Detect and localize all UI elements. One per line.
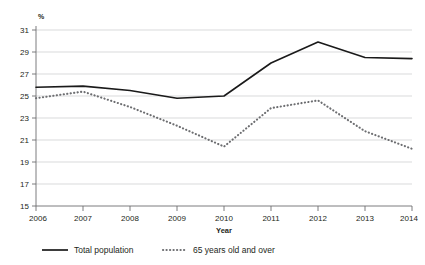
xtick-label-2014: 2014 <box>400 214 418 223</box>
ytick-label-27: 27 <box>20 70 29 79</box>
line-chart: % 31 29 <box>0 0 425 265</box>
ytick-label-15: 15 <box>20 202 29 211</box>
xtick-label-2006: 2006 <box>29 214 47 223</box>
ytick-label-21: 21 <box>20 136 29 145</box>
xtick-label-2007: 2007 <box>74 214 92 223</box>
series-line-total-population <box>36 42 412 98</box>
xtick-label-2013: 2013 <box>356 214 374 223</box>
legend-label-total-population: Total population <box>74 245 134 255</box>
ytick-label-31: 31 <box>20 26 29 35</box>
xtick-label-2008: 2008 <box>121 214 139 223</box>
x-axis-title: Year <box>216 226 232 235</box>
y-axis-ticks <box>32 30 36 206</box>
legend-label-65-years-old-and-over: 65 years old and over <box>193 245 275 255</box>
xtick-label-2009: 2009 <box>168 214 186 223</box>
x-axis-ticks <box>36 206 412 211</box>
y-axis-tick-labels: 31 29 27 25 23 21 19 17 15 <box>20 26 29 211</box>
ytick-label-29: 29 <box>20 48 29 57</box>
gridlines <box>36 30 412 184</box>
y-axis-unit-label: % <box>38 13 45 20</box>
ytick-label-25: 25 <box>20 92 29 101</box>
chart-canvas: % 31 29 <box>0 0 425 265</box>
chart-legend: Total population 65 years old and over <box>42 245 275 255</box>
x-axis-tick-labels: 2006 2007 2008 2009 2010 2011 2012 2013 … <box>29 214 418 223</box>
ytick-label-19: 19 <box>20 158 29 167</box>
xtick-label-2012: 2012 <box>309 214 327 223</box>
ytick-label-23: 23 <box>20 114 29 123</box>
xtick-label-2011: 2011 <box>262 214 280 223</box>
ytick-label-17: 17 <box>20 180 29 189</box>
xtick-label-2010: 2010 <box>215 214 233 223</box>
